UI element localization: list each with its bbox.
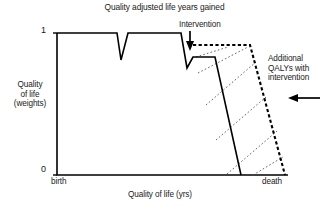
additional-qalys-annotation-label: Additional QALYs with intervention <box>268 54 329 83</box>
x-axis-tick-label-death: death <box>262 177 282 187</box>
qaly-figure: Quality adjusted life years gained 1 0 Q… <box>0 0 329 209</box>
intervention-arrow-icon <box>186 31 194 51</box>
x-axis-title: Quality of life (yrs) <box>90 190 230 200</box>
x-axis-tick-label-birth: birth <box>51 177 66 187</box>
y-axis-tick-label-top: 1 <box>41 26 46 36</box>
chart-axes <box>53 33 288 175</box>
without-intervention-curve <box>57 33 241 175</box>
without-intervention-path <box>57 33 241 175</box>
chart-title: Quality adjusted life years gained <box>0 3 329 13</box>
axis-lines <box>57 33 288 175</box>
y-axis-title: Quality of life (weights) <box>4 80 56 109</box>
additional-qalys-arrow-icon <box>288 94 320 102</box>
intervention-annotation-label: Intervention <box>179 20 221 30</box>
y-axis-tick-label-bottom: 0 <box>41 165 46 175</box>
